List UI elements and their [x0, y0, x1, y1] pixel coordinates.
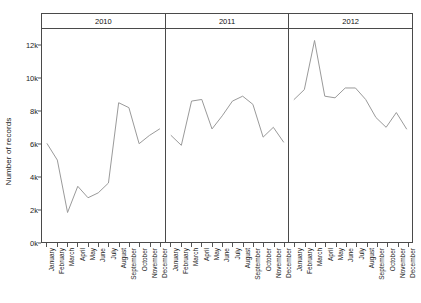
x-tick-mark: [129, 243, 130, 247]
x-tick-mark: [284, 243, 285, 247]
x-tick-mark: [57, 243, 58, 247]
y-tick-label: 0k: [30, 239, 38, 248]
x-tick-mark: [108, 243, 109, 247]
x-tick-label-february: February: [59, 248, 66, 274]
series-line-2012: [294, 40, 406, 128]
x-tick-label-may: May: [338, 248, 345, 260]
x-tick-label-september: September: [131, 248, 138, 280]
x-tick-label-october: October: [390, 248, 397, 271]
x-tick-label-may: May: [90, 248, 97, 260]
x-tick-label-june: June: [224, 248, 231, 262]
x-tick-mark: [356, 243, 357, 247]
x-axis-panel-2012: JanuaryFebruaryMarchAprilMayJuneJulyAugu…: [289, 243, 413, 303]
x-tick-mark: [243, 243, 244, 247]
x-tick-mark: [387, 243, 388, 247]
x-tick-label-june: June: [348, 248, 355, 262]
x-tick-mark: [46, 243, 47, 247]
x-tick-mark: [119, 243, 120, 247]
x-tick-label-august: August: [369, 248, 376, 268]
y-tick-label: 8k: [30, 106, 38, 115]
x-tick-label-march: March: [193, 248, 200, 266]
x-tick-label-september: September: [255, 248, 262, 280]
x-tick-mark: [336, 243, 337, 247]
x-tick-label-november: November: [152, 248, 159, 278]
x-tick-mark: [191, 243, 192, 247]
y-tick-label: 2k: [30, 205, 38, 214]
x-tick-mark: [325, 243, 326, 247]
x-tick-label-august: August: [121, 248, 128, 268]
x-tick-mark: [201, 243, 202, 247]
x-tick-label-july: July: [111, 248, 118, 260]
x-tick-label-october: October: [266, 248, 273, 271]
x-tick-mark: [77, 243, 78, 247]
x-tick-mark: [98, 243, 99, 247]
x-tick-mark: [294, 243, 295, 247]
x-tick-label-august: August: [245, 248, 252, 268]
x-tick-mark: [232, 243, 233, 247]
x-tick-mark: [88, 243, 89, 247]
x-tick-label-april: April: [328, 248, 335, 261]
x-tick-label-april: April: [80, 248, 87, 261]
series-line-2010: [47, 103, 159, 213]
x-tick-mark: [274, 243, 275, 247]
series-line-2011: [171, 96, 283, 145]
x-tick-mark: [160, 243, 161, 247]
panel-strip-label-2010: 2010: [42, 14, 166, 28]
y-tick-label: 4k: [30, 172, 38, 181]
y-tick-label: 6k: [30, 139, 38, 148]
panel-row: [41, 28, 413, 243]
panel-2012: [289, 29, 412, 242]
x-tick-mark: [222, 243, 223, 247]
x-tick-label-november: November: [400, 248, 407, 278]
x-tick-mark: [253, 243, 254, 247]
x-tick-label-february: February: [183, 248, 190, 274]
x-tick-label-april: April: [204, 248, 211, 261]
x-tick-label-september: September: [379, 248, 386, 280]
x-tick-label-july: July: [359, 248, 366, 260]
x-tick-label-march: March: [317, 248, 324, 266]
x-tick-label-january: January: [173, 248, 180, 271]
x-tick-mark: [315, 243, 316, 247]
x-axis-panel-2011: JanuaryFebruaryMarchAprilMayJuneJulyAugu…: [165, 243, 289, 303]
x-tick-mark: [150, 243, 151, 247]
x-tick-mark: [367, 243, 368, 247]
x-tick-label-november: November: [276, 248, 283, 278]
x-tick-mark: [212, 243, 213, 247]
x-tick-label-july: July: [235, 248, 242, 260]
x-tick-label-may: May: [214, 248, 221, 260]
x-axis-row: JanuaryFebruaryMarchAprilMayJuneJulyAugu…: [41, 243, 413, 303]
y-tick-label: 10k: [26, 73, 38, 82]
x-axis-panel-2010: JanuaryFebruaryMarchAprilMayJuneJulyAugu…: [41, 243, 165, 303]
x-tick-mark: [346, 243, 347, 247]
x-tick-label-december: December: [410, 248, 417, 278]
x-tick-label-october: October: [142, 248, 149, 271]
panel-strip-row: 201020112012: [41, 13, 413, 28]
x-tick-mark: [67, 243, 68, 247]
y-axis-ticks: 0k2k4k6k8k10k12k: [14, 28, 38, 243]
x-tick-label-june: June: [100, 248, 107, 262]
faceted-line-chart: Number of records 0k2k4k6k8k10k12k 20102…: [0, 0, 421, 303]
x-tick-mark: [377, 243, 378, 247]
y-tick-label: 12k: [26, 40, 38, 49]
x-tick-label-february: February: [307, 248, 314, 274]
panel-strip-label-2012: 2012: [289, 14, 412, 28]
x-tick-mark: [305, 243, 306, 247]
x-tick-mark: [181, 243, 182, 247]
x-tick-label-march: March: [69, 248, 76, 266]
x-tick-label-january: January: [297, 248, 304, 271]
panel-2010: [42, 29, 166, 242]
x-tick-mark: [170, 243, 171, 247]
x-tick-mark: [139, 243, 140, 247]
x-tick-mark: [408, 243, 409, 247]
panel-strip-label-2011: 2011: [166, 14, 290, 28]
panel-2011: [166, 29, 290, 242]
x-tick-mark: [398, 243, 399, 247]
x-tick-label-january: January: [49, 248, 56, 271]
x-tick-mark: [263, 243, 264, 247]
